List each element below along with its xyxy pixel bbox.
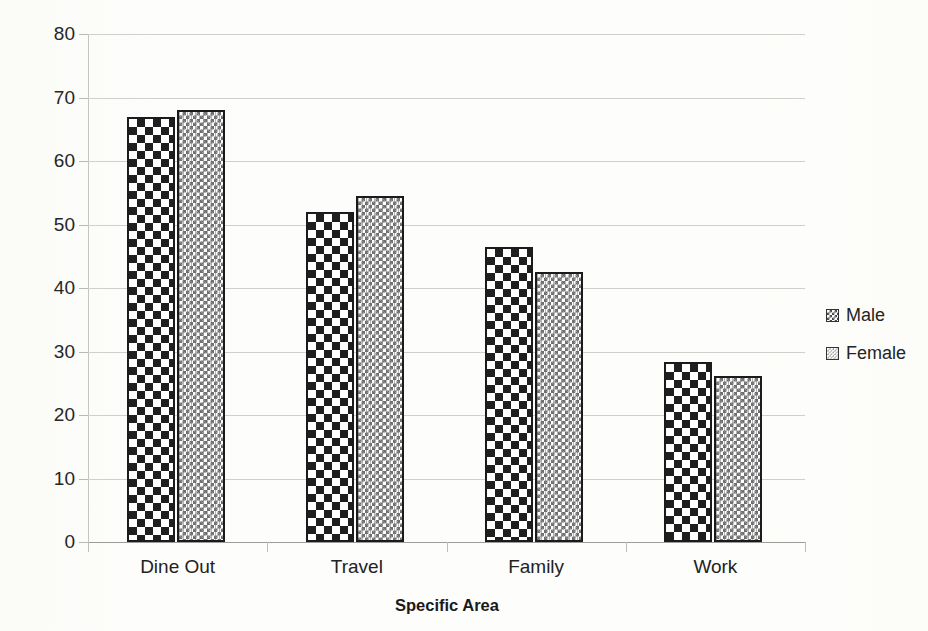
y-axis-tick [79,415,88,416]
x-axis-separator-tick [267,542,268,552]
bar-travel-female [356,196,404,542]
legend-swatch-icon [826,347,839,360]
y-axis-tick-label: 60 [54,150,75,172]
bar-family-male [485,247,533,542]
bar-travel-male [306,212,354,542]
legend: MaleFemale [826,305,922,381]
y-axis-tick [79,161,88,162]
bar-family-female [535,272,583,542]
y-axis-tick [79,542,88,543]
legend-label: Male [846,305,885,326]
bar-chart: Percentage of Population Affected 010203… [0,0,928,631]
y-axis-tick-label: 70 [54,87,75,109]
y-axis-tick [79,288,88,289]
plot-area: 01020304050607080 [88,34,805,542]
y-axis-tick [79,34,88,35]
legend-item-male: Male [826,305,922,325]
bar-dine-out-female [177,110,225,542]
bar-group [306,34,404,542]
x-axis-separator-tick [626,542,627,552]
y-axis-tick-label: 10 [54,468,75,490]
y-axis-tick [79,225,88,226]
y-axis-tick [79,352,88,353]
x-axis-tick-label: Dine Out [140,556,215,578]
bar-dine-out-male [127,117,175,542]
bar-work-female [714,376,762,542]
x-axis-end-tick [805,542,806,552]
y-axis-tick [79,98,88,99]
bar-group [485,34,583,542]
x-axis-tick-label: Work [693,556,737,578]
bar-work-male [664,362,712,542]
bar-group [127,34,225,542]
x-axis-tick-label: Family [508,556,564,578]
x-axis-title: Specific Area [395,596,499,615]
y-axis-tick-label: 20 [54,404,75,426]
legend-swatch-icon [826,309,839,322]
x-axis-tick-label: Travel [331,556,383,578]
legend-label: Female [846,343,906,364]
y-axis-tick-label: 30 [54,341,75,363]
y-axis-tick [79,479,88,480]
y-axis-tick-label: 40 [54,277,75,299]
x-axis-separator-tick [447,542,448,552]
y-axis-tick-label: 80 [54,23,75,45]
y-axis-tick-label: 0 [64,531,75,553]
legend-item-female: Female [826,343,922,363]
bar-group [664,34,762,542]
y-axis-tick-label: 50 [54,214,75,236]
x-axis-end-tick [88,542,89,552]
